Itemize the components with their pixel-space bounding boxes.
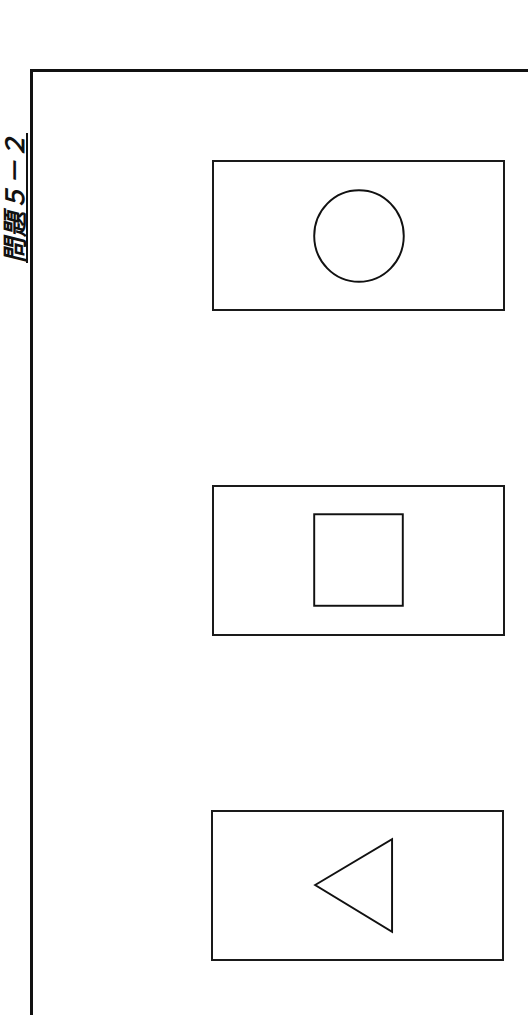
square-icon <box>214 487 503 634</box>
card-circle[interactable] <box>212 160 505 311</box>
card-triangle[interactable] <box>211 810 504 961</box>
card-square[interactable] <box>212 485 505 636</box>
circle-icon <box>214 162 503 309</box>
triangle-left-icon <box>213 812 502 959</box>
page-title: 問題５－２ <box>2 73 30 263</box>
frame-top-border <box>30 69 528 72</box>
frame-left-border <box>30 69 33 1015</box>
